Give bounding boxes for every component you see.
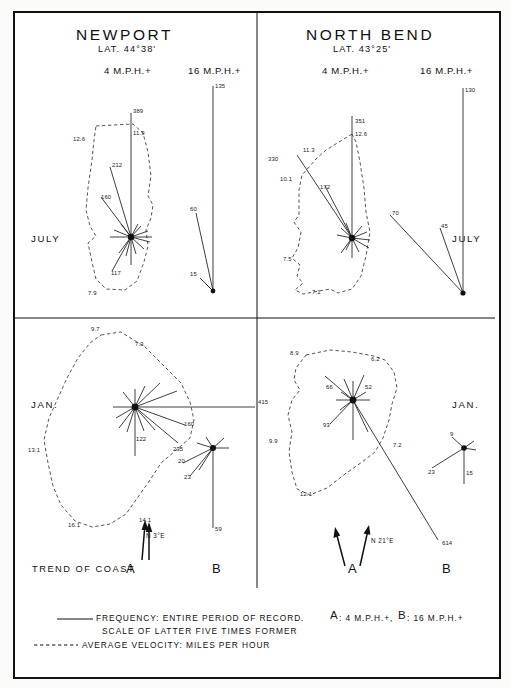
ray-70: [390, 215, 463, 293]
legend-velocity-line: AVERAGE VELOCITY: MILES PER HOUR: [82, 641, 270, 649]
ray-45: [440, 228, 463, 293]
value-label: 9.7: [91, 327, 100, 333]
wind-rose-drawing: [0, 0, 510, 688]
legend-key-b-text: : 16 M.P.H.+: [407, 614, 464, 622]
legend-key-a: A: [330, 610, 338, 622]
figure-plate: NEWPORT LAT. 44°38' NORTH BEND LAT. 43°2…: [0, 0, 510, 688]
value-label: 60: [190, 207, 197, 213]
value-label: 11.3: [303, 148, 315, 154]
value-label: 330: [268, 157, 278, 163]
value-label: 9: [450, 432, 453, 438]
value-label: 45: [441, 224, 448, 230]
rose-hub-newport-jan: [132, 404, 139, 411]
ray-jan-ne: [135, 383, 160, 407]
ray-172: [325, 186, 352, 238]
north-arrow-north-bend: [334, 525, 371, 566]
velocity-polygon-north-bend-jan: [288, 350, 397, 495]
value-label: 12.1: [300, 492, 312, 498]
ray-jan-sw: [119, 407, 135, 428]
value-label: 7.9: [88, 291, 97, 297]
velocity-polygon-newport-july: [86, 124, 153, 290]
value-label: 15: [466, 471, 473, 477]
value-label: 117: [111, 271, 121, 277]
value-label: 7.3: [135, 342, 144, 348]
value-label: 122: [136, 437, 146, 443]
value-label: 12.6: [73, 137, 85, 143]
value-label: 212: [112, 163, 122, 169]
value-label: 20: [178, 459, 185, 465]
value-label: 52: [365, 385, 372, 391]
ray-212: [110, 167, 131, 237]
value-label: 23: [428, 470, 435, 476]
ray-nbjan-sse: [353, 400, 368, 432]
rose-hub-newport-july: [128, 234, 134, 240]
value-label: 160: [101, 195, 111, 201]
value-label: 23: [184, 475, 191, 481]
velocity-polygon-north-bend-july: [292, 134, 370, 294]
panel-north-bend-july-16mph: [390, 88, 466, 296]
panel-newport-july-16mph: [196, 86, 215, 293]
legend-frequency-line1: FREQUENCY: ENTIRE PERIOD OF RECORD.: [96, 614, 304, 622]
value-label: 8.9: [290, 351, 299, 357]
north-arrow-newport: [142, 520, 153, 560]
value-label: 130: [465, 88, 475, 94]
legend-key-b: B: [398, 610, 406, 622]
value-label: 15: [190, 272, 197, 278]
value-label: 614: [442, 541, 452, 547]
panel-north-bend-jan-16mph: [432, 437, 476, 484]
value-label: 10.1: [280, 177, 292, 183]
rose-hub-north-bend-july: [349, 235, 355, 241]
ray-614: [353, 400, 438, 540]
rose-hub-newport-jan-b: [210, 445, 216, 451]
panel-newport-july-4mph: [86, 113, 153, 290]
panel-newport-jan-16mph: [183, 437, 229, 528]
legend-key-a-text: : 4 M.P.H.+,: [339, 614, 393, 622]
value-label: 11.9: [133, 131, 145, 137]
value-label: 6.2: [371, 357, 380, 363]
value-label: 160: [184, 422, 194, 428]
velocity-polygon-newport-jan: [44, 332, 194, 527]
value-label: 415: [258, 400, 268, 406]
value-label: 9.9: [269, 439, 278, 445]
ray-23-nb: [432, 448, 464, 468]
value-label: 7.5: [283, 257, 292, 263]
panel-north-bend-jan-4mph: [288, 350, 438, 540]
value-label: 235: [173, 447, 183, 453]
value-label: 7.1: [312, 290, 321, 296]
value-label: 14.1: [139, 518, 151, 524]
ray-330: [297, 155, 352, 238]
panel-newport-jan-4mph: [44, 332, 255, 527]
ray-93: [330, 400, 353, 424]
value-label: 93: [323, 423, 330, 429]
rose-hub-newport-july-b: [211, 289, 216, 294]
value-label: 7.2: [393, 443, 402, 449]
value-label: 13.1: [28, 448, 40, 454]
ray-60: [196, 213, 213, 291]
rose-hub-north-bend-july-b: [460, 290, 465, 295]
value-label: 70: [392, 211, 399, 217]
value-label: 66: [326, 385, 333, 391]
value-label: 135: [215, 84, 225, 90]
value-label: 12.6: [355, 132, 367, 138]
rose-hub-north-bend-jan-b: [461, 445, 467, 451]
value-label: 59: [215, 527, 222, 533]
value-label: 16.1: [68, 523, 80, 529]
value-label: 351: [355, 119, 365, 125]
legend-frequency-line2: SCALE OF LATTER FIVE TIMES FORMER: [102, 627, 298, 635]
rose-hub-north-bend-jan: [350, 397, 357, 404]
ray-117: [112, 237, 131, 271]
value-label: 172: [320, 185, 330, 191]
ray-23: [190, 448, 213, 476]
value-label: 389: [133, 109, 143, 115]
panel-north-bend-july-4mph: [292, 116, 370, 294]
